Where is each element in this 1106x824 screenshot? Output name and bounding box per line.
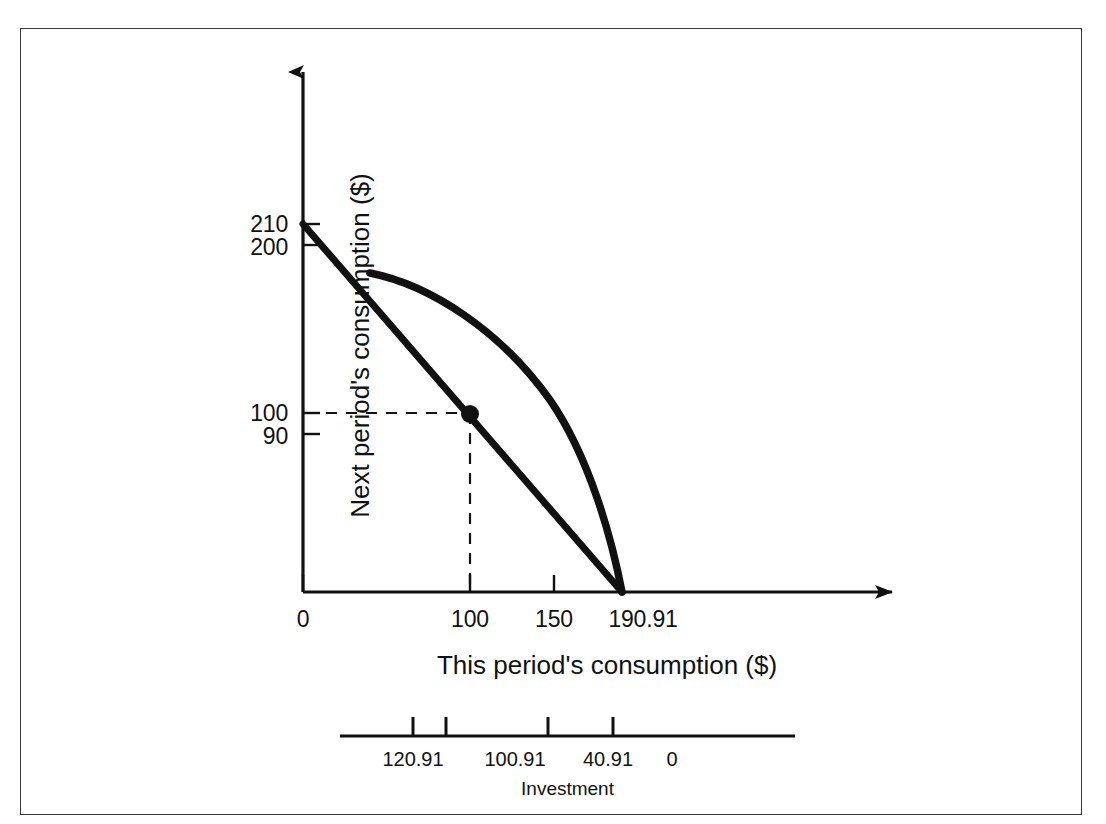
x-tick-label-190-91: 190.91 <box>608 606 677 633</box>
investment-tick-label-120-91: 120.91 <box>382 748 443 771</box>
investment-tick-label-0: 0 <box>666 748 677 771</box>
figure-container: 210 200 100 90 0 100 150 190.91 Next per… <box>0 0 1106 824</box>
x-tick-label-150: 150 <box>535 606 573 633</box>
y-axis-title: Next period's consumption ($) <box>345 146 376 546</box>
investment-tick-label-40-91: 40.91 <box>583 748 633 771</box>
y-tick-label-90: 90 <box>238 423 288 450</box>
chosen-point-marker <box>461 405 479 423</box>
y-tick-label-200: 200 <box>238 234 288 261</box>
investment-tick-label-100-91: 100.91 <box>484 748 545 771</box>
investment-axis-title: Investment <box>340 778 795 800</box>
x-tick-label-0: 0 <box>297 606 310 633</box>
x-axis-title: This period's consumption ($) <box>302 650 912 681</box>
chart-plot-area <box>0 0 1106 824</box>
x-tick-label-100: 100 <box>451 606 489 633</box>
